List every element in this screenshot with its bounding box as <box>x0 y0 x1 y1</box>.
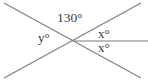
angle-label-x-lower: x° <box>98 41 110 54</box>
angle-label-130: 130° <box>57 11 83 25</box>
angle-label-y: y° <box>38 31 50 44</box>
angle-label-x-upper: x° <box>98 27 110 40</box>
geometry-figure: 130° y° x° x° <box>0 0 148 81</box>
